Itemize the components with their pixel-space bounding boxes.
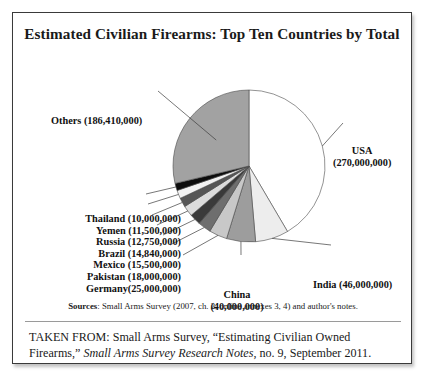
- divider-rule: [25, 321, 401, 322]
- chart-title: Estimated Civilian Firearms: Top Ten Cou…: [13, 25, 411, 43]
- slice-label-usa-name: USA: [352, 145, 373, 156]
- attribution-suffix: , no. 9, September 2011.: [253, 346, 371, 360]
- slice-label-russia: Russia (12,750,000): [85, 236, 181, 248]
- slice-label-brazil: Brazil (14,840,000): [85, 248, 181, 260]
- attribution-note: TAKEN FROM: Small Arms Survey, “Estimati…: [29, 329, 401, 361]
- slice-label-thailand: Thailand (10,000,000): [85, 213, 181, 225]
- pie-chart: Others (186,410,000) USA (270,000,000) I…: [13, 49, 413, 281]
- sources-label: Sources: [68, 301, 97, 311]
- slice-label-usa: USA (270,000,000): [333, 145, 391, 168]
- pie-slices: [173, 90, 325, 242]
- slice-label-germany: Germany(25,000,000): [85, 283, 181, 295]
- slice-label-mexico: Mexico (15,500,000): [85, 259, 181, 271]
- slice-label-pakistan: Pakistan (18,000,000): [85, 271, 181, 283]
- sources-text: : Small Arms Survey (2007, ch. 2, online…: [97, 301, 358, 311]
- slice-label-india: India (46,000,000): [313, 279, 392, 291]
- slice-label-yemen: Yemen (11,500,000): [85, 225, 181, 237]
- left-label-stack: Thailand (10,000,000) Yemen (11,500,000)…: [85, 213, 181, 294]
- slice-label-usa-value: (270,000,000): [333, 157, 391, 168]
- attribution-italic-title: Small Arms Survey Research Notes: [83, 346, 253, 360]
- figure-frame: Estimated Civilian Firearms: Top Ten Cou…: [12, 12, 412, 364]
- sources-note: Sources: Small Arms Survey (2007, ch. 2,…: [13, 301, 413, 311]
- slice-label-others: Others (186,410,000): [51, 115, 142, 127]
- slice-label-china-name: China: [224, 289, 251, 300]
